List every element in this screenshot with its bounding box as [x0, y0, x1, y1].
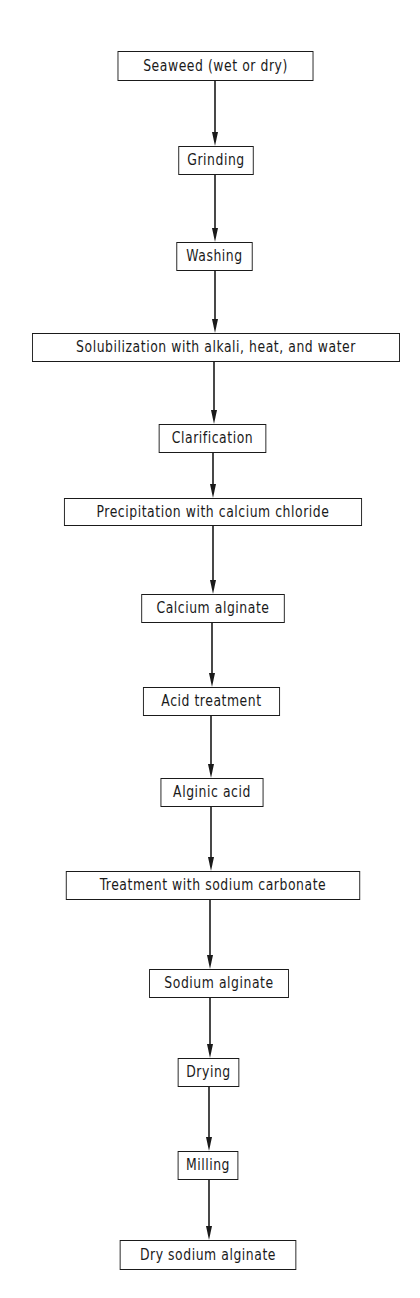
- step-sodium-alginate: Sodium alginate: [149, 969, 289, 998]
- arrowhead-icon: [212, 319, 218, 333]
- arrowhead-icon: [207, 1044, 213, 1058]
- arrow-sodium-carbonate-treatment-to-sodium-alginate: [207, 900, 213, 969]
- arrow-acid-treatment-to-alginic-acid: [208, 716, 214, 778]
- arrow-clarification-to-precipitation: [210, 453, 216, 498]
- arrow-seaweed-to-grinding: [212, 81, 218, 146]
- arrowhead-icon: [209, 673, 215, 687]
- step-washing: Washing: [176, 242, 252, 271]
- arrowhead-icon: [210, 580, 216, 594]
- flow-arrows: [0, 0, 420, 1298]
- arrowhead-icon: [206, 1226, 212, 1240]
- arrow-milling-to-dry-sodium-alginate: [206, 1180, 212, 1240]
- arrowhead-icon: [212, 228, 218, 242]
- arrowhead-icon: [207, 955, 213, 969]
- step-drying: Drying: [178, 1058, 240, 1087]
- step-calcium-alginate: Calcium alginate: [141, 594, 285, 623]
- arrow-grinding-to-washing: [212, 175, 218, 242]
- step-dry-sodium-alginate: Dry sodium alginate: [120, 1240, 297, 1270]
- step-precipitation: Precipitation with calcium chloride: [64, 498, 362, 526]
- arrowhead-icon: [208, 764, 214, 778]
- arrowhead-icon: [211, 410, 217, 424]
- step-grinding: Grinding: [178, 146, 253, 175]
- step-acid-treatment: Acid treatment: [143, 687, 280, 716]
- step-clarification: Clarification: [159, 424, 267, 453]
- step-alginic-acid: Alginic acid: [160, 778, 263, 807]
- arrow-precipitation-to-calcium-alginate: [210, 526, 216, 594]
- arrowhead-icon: [208, 857, 214, 871]
- arrow-calcium-alginate-to-acid-treatment: [209, 623, 215, 687]
- step-solubilization: Solubilization with alkali, heat, and wa…: [32, 333, 400, 362]
- arrow-solubilization-to-clarification: [211, 362, 217, 424]
- step-sodium-carbonate-treatment: Treatment with sodium carbonate: [66, 871, 360, 900]
- arrow-alginic-acid-to-sodium-carbonate-treatment: [208, 807, 214, 871]
- arrow-drying-to-milling: [206, 1087, 212, 1151]
- step-seaweed: Seaweed (wet or dry): [118, 51, 314, 81]
- step-milling: Milling: [178, 1151, 239, 1180]
- arrow-sodium-alginate-to-drying: [207, 998, 213, 1058]
- arrowhead-icon: [210, 484, 216, 498]
- arrowhead-icon: [212, 132, 218, 146]
- arrowhead-icon: [206, 1137, 212, 1151]
- arrow-washing-to-solubilization: [212, 271, 218, 333]
- alginate-production-flowchart: Seaweed (wet or dry) Grinding Washing So…: [0, 0, 420, 1298]
